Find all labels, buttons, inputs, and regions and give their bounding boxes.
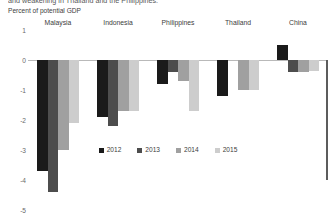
bar-indonesia-2012 [97,60,108,117]
bar-thailand-2014 [238,60,249,90]
bar-indonesia-2014 [118,60,129,111]
plot-area [28,30,328,210]
bar-malaysia-2015 [69,60,80,123]
legend-label: 2012 [107,146,122,154]
legend-swatch-icon [176,148,181,153]
legend-item-2013[interactable]: 2013 [137,146,160,154]
bar-thailand-2012 [217,60,228,96]
legend-label: 2013 [145,146,160,154]
chart-legend: 2012201320142015 [0,146,336,154]
bar-china-2013 [288,60,299,72]
bar-malaysia-2014 [58,60,69,150]
bar-philippines-2015 [189,60,200,111]
axis-spine-right [326,60,328,180]
legend-label: 2015 [223,146,238,154]
bar-philippines-2014 [178,60,189,81]
bar-indonesia-2015 [129,60,140,111]
bar-malaysia-2013 [48,60,59,192]
legend-item-2012[interactable]: 2012 [99,146,122,154]
chart-figure: and weakening in Thailand and the Philip… [0,0,336,214]
bar-china-2015 [309,60,320,71]
y-axis-tick-label: 0 [0,57,26,64]
legend-swatch-icon [215,148,220,153]
legend-item-2014[interactable]: 2014 [176,146,199,154]
y-axis: 10-1-2-3-4-5 [0,30,26,210]
y-axis-tick-label: -1 [0,87,26,94]
y-axis-tick-label: -2 [0,117,26,124]
bar-indonesia-2013 [108,60,119,126]
legend-swatch-icon [99,148,104,153]
x-axis-group-label-china: China [258,19,336,27]
legend-label: 2014 [184,146,199,154]
legend-swatch-icon [137,148,142,153]
chart-subtitle: Percent of potential GDP [8,6,81,15]
bar-philippines-2012 [157,60,168,84]
bar-thailand-2015 [249,60,260,90]
bar-china-2012 [277,45,288,60]
y-axis-tick-label: -4 [0,177,26,184]
bar-malaysia-2012 [37,60,48,171]
legend-item-2015[interactable]: 2015 [215,146,238,154]
y-axis-tick-label: -5 [0,207,26,214]
bar-china-2014 [298,60,309,72]
bar-philippines-2013 [168,60,179,72]
y-axis-tick-label: 1 [0,27,26,34]
chart-cut-title: and weakening in Thailand and the Philip… [8,0,328,5]
